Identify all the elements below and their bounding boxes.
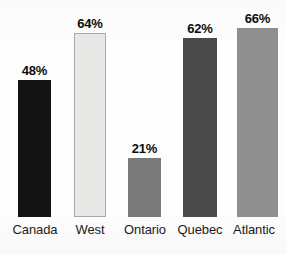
bar-group-canada: 48% (18, 0, 51, 217)
bar-value-label-canada: 48% (22, 64, 47, 77)
bar-west (74, 33, 106, 217)
plot-area: 48% 64% 21% 62% 66% (0, 0, 286, 217)
x-axis-labels: Canada West Ontario Quebec Atlantic (0, 217, 286, 254)
x-axis-label-atlantic: Atlantic (222, 223, 286, 237)
bar-group-atlantic: 66% (237, 0, 278, 217)
bar-value-label-atlantic: 66% (245, 12, 270, 25)
bar-group-quebec: 62% (183, 0, 217, 217)
bar-value-label-west: 64% (77, 17, 102, 30)
bar-value-label-quebec: 62% (187, 22, 212, 35)
bar-group-ontario: 21% (128, 0, 161, 217)
bar-chart: 48% 64% 21% 62% 66% Canada West Ontario … (0, 0, 286, 254)
bar-quebec (183, 38, 217, 217)
bar-group-west: 64% (74, 0, 106, 217)
bar-atlantic (237, 28, 278, 217)
bar-canada (18, 80, 51, 217)
bar-ontario (128, 158, 161, 217)
bar-value-label-ontario: 21% (132, 142, 157, 155)
